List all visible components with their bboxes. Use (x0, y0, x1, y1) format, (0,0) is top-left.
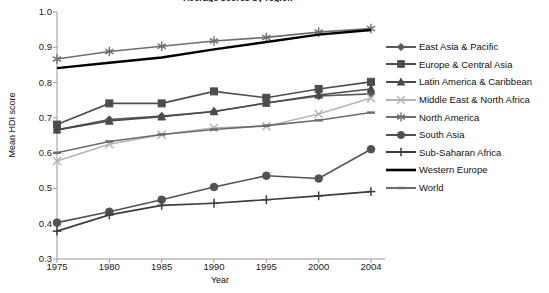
series-sub-saharan-africa (53, 187, 376, 235)
legend-swatch-icon (386, 76, 416, 88)
legend-item-north-america[interactable]: North America (386, 108, 549, 126)
legend-swatch-icon (386, 129, 416, 141)
x-axis-label: Year (60, 275, 380, 285)
y-tick-0-7: 0.7 (22, 112, 52, 123)
x-tick-1980: 1980 (87, 261, 131, 272)
legend-swatch-icon (386, 146, 416, 158)
chart-container: Average scores by region Mean HDI score … (0, 0, 549, 293)
legend-item-europe-central-asia[interactable]: Europe & Central Asia (386, 56, 549, 74)
x-tick-2000: 2000 (297, 261, 341, 272)
y-tick-0-6: 0.6 (22, 147, 52, 158)
legend-item-world[interactable]: World (386, 179, 549, 197)
legend-item-latin-america-caribbean[interactable]: Latin America & Caribbean (386, 73, 549, 91)
legend-swatch-icon (386, 41, 416, 53)
legend-swatch-icon (386, 94, 416, 106)
legend-item-east-asia-pacific[interactable]: East Asia & Pacific (386, 38, 549, 56)
legend-label: Middle East & North Africa (419, 94, 530, 105)
legend-label: Europe & Central Asia (419, 59, 512, 70)
legend-swatch-icon (386, 164, 416, 176)
y-tick-0-4: 0.4 (22, 218, 52, 229)
legend-item-south-asia[interactable]: South Asia (386, 126, 549, 144)
legend-label: World (419, 182, 444, 193)
legend-swatch-icon (386, 111, 416, 123)
legend-label: Western Europe (419, 164, 487, 175)
y-tick-1-0: 1.0 (22, 6, 52, 17)
chart-legend: East Asia & PacificEurope & Central Asia… (386, 38, 549, 196)
x-tick-1985: 1985 (140, 261, 184, 272)
chart-title: Average scores by region (118, 0, 358, 2)
series-western-europe (57, 30, 371, 68)
y-tick-0-5: 0.5 (22, 182, 52, 193)
y-tick-0-9: 0.9 (22, 41, 52, 52)
x-tick-2004: 2004 (349, 261, 393, 272)
x-tick-1995: 1995 (244, 261, 288, 272)
legend-item-sub-saharan-africa[interactable]: Sub-Saharan Africa (386, 144, 549, 162)
legend-label: Sub-Saharan Africa (419, 147, 501, 158)
y-tick-0-8: 0.8 (22, 77, 52, 88)
x-tick-1975: 1975 (35, 261, 79, 272)
legend-label: Latin America & Caribbean (419, 76, 532, 87)
legend-item-western-europe[interactable]: Western Europe (386, 161, 549, 179)
legend-label: North America (419, 112, 479, 123)
legend-swatch-icon (386, 58, 416, 70)
x-tick-1990: 1990 (192, 261, 236, 272)
legend-label: East Asia & Pacific (419, 41, 498, 52)
legend-swatch-icon (386, 182, 416, 194)
legend-item-middle-east-north-africa[interactable]: Middle East & North Africa (386, 91, 549, 109)
y-axis-label: Mean HDI score (7, 80, 17, 170)
legend-label: South Asia (419, 129, 464, 140)
series-north-america (53, 24, 375, 64)
series-south-asia (53, 145, 375, 226)
